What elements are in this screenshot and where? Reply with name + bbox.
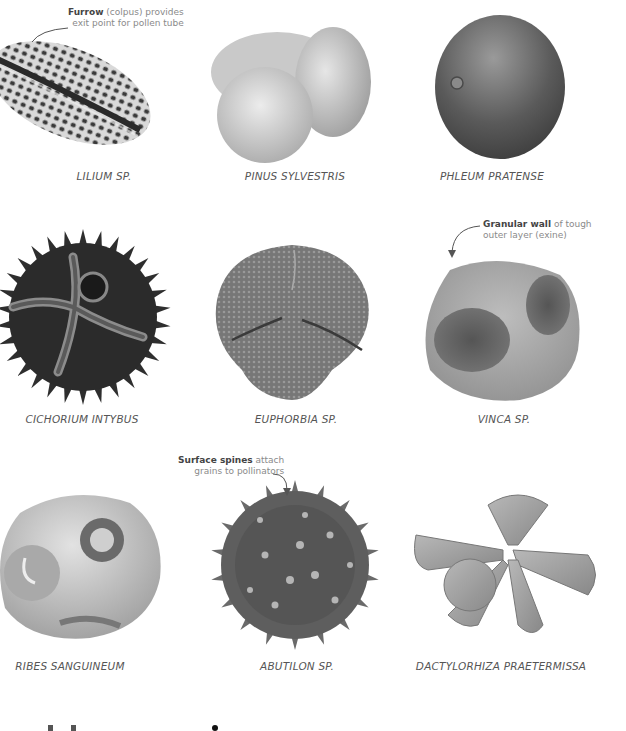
vinca-pollen-grain-image [420, 250, 590, 410]
specimen-label: EUPHORBIA SP. [255, 413, 337, 425]
phleum-pollen-grain-image [432, 12, 572, 162]
abutilon-pollen-grain-image [205, 480, 395, 650]
specimen-label: ABUTILON SP. [260, 660, 334, 672]
ribes-pollen-grain-image [0, 488, 170, 648]
heading-dot-fragment [212, 725, 218, 731]
furrow-leader-line [30, 24, 70, 44]
specimen-label: RIBES SANGUINEUM [15, 660, 124, 672]
specimen-label: PHLEUM PRATENSE [440, 170, 544, 182]
heading-glyph-fragment [48, 725, 76, 731]
specimen-label: DACTYLORHIZA PRAETERMISSA [416, 660, 586, 672]
specimen-label: PINUS SYLVESTRIS [245, 170, 345, 182]
surface-spines-annotation: Surface spines attach grains to pollinat… [178, 455, 284, 477]
specimen-label: LILIUM SP. [77, 170, 132, 182]
specimen-label: VINCA SP. [478, 413, 531, 425]
pinus-pollen-grain-image [205, 20, 375, 160]
granular-wall-leader-line [448, 222, 488, 262]
specimen-label: CICHORIUM INTYBUS [25, 413, 138, 425]
lilium-pollen-grain-image [0, 38, 170, 168]
euphorbia-pollen-grain-image [212, 240, 382, 410]
granular-wall-annotation: Granular wall of tough outer layer (exin… [483, 219, 592, 241]
dactylorhiza-pollen-grain-image [408, 485, 608, 655]
cichorium-pollen-grain-image [0, 235, 170, 405]
furrow-annotation: Furrow (colpus) provides exit point for … [68, 7, 184, 29]
